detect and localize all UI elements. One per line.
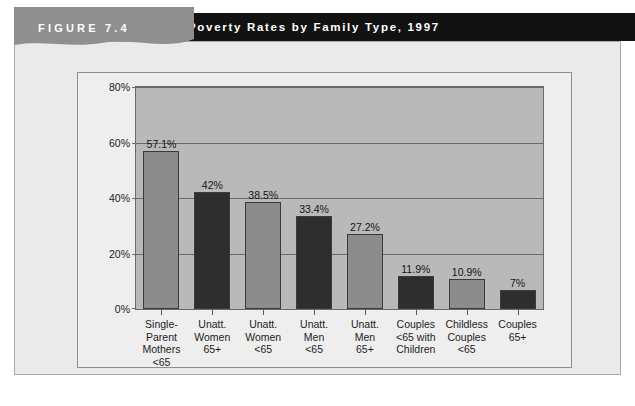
x-axis-tick-mark <box>263 309 264 315</box>
y-axis-tick-label: 40% <box>109 192 130 204</box>
bar-value-label: 33.4% <box>299 203 329 215</box>
bar[interactable]: 27.2% <box>347 234 383 309</box>
x-axis-tick-mark <box>467 309 468 315</box>
page-title: Poverty Rates by Family Type, 1997 <box>188 13 440 41</box>
bar[interactable]: 33.4% <box>296 216 332 309</box>
bar[interactable]: 7% <box>500 290 536 309</box>
gridline <box>136 143 543 144</box>
bar-value-label: 38.5% <box>248 189 278 201</box>
figure-panel: 0%20%40%60%80%57.1%Single- Parent Mother… <box>14 41 621 375</box>
bar[interactable]: 57.1% <box>143 151 179 309</box>
x-axis-tick-mark <box>161 309 162 315</box>
chart-frame: 0%20%40%60%80%57.1%Single- Parent Mother… <box>77 72 572 368</box>
bar[interactable]: 11.9% <box>398 276 434 309</box>
bar[interactable]: 38.5% <box>245 202 281 309</box>
bar[interactable]: 10.9% <box>449 279 485 309</box>
plot-area: 0%20%40%60%80%57.1%Single- Parent Mother… <box>135 86 544 310</box>
x-axis-tick-mark <box>314 309 315 315</box>
x-axis-tick-mark <box>518 309 519 315</box>
y-axis-tick-mark <box>132 87 136 88</box>
bar-value-label: 10.9% <box>452 266 482 278</box>
bar-chart: 0%20%40%60%80%57.1%Single- Parent Mother… <box>78 73 571 367</box>
bar-value-label: 27.2% <box>350 221 380 233</box>
bar-value-label: 57.1% <box>147 138 177 150</box>
gridline <box>136 87 543 88</box>
y-axis-tick-label: 80% <box>109 81 130 93</box>
y-axis-tick-mark <box>132 308 136 309</box>
x-axis-tick-mark <box>416 309 417 315</box>
y-axis-tick-label: 60% <box>109 137 130 149</box>
y-axis-tick-mark <box>132 198 136 199</box>
y-axis-tick-label: 0% <box>115 303 130 315</box>
y-axis-tick-mark <box>132 254 136 255</box>
x-axis-tick-mark <box>365 309 366 315</box>
figure-number-label: FIGURE 7.4 <box>38 19 130 37</box>
x-axis-tick-mark <box>212 309 213 315</box>
bar-value-label: 7% <box>510 277 525 289</box>
y-axis-tick-mark <box>132 143 136 144</box>
bar-value-label: 11.9% <box>401 263 430 275</box>
figure-header: Poverty Rates by Family Type, 1997 FIGUR… <box>0 0 635 52</box>
figure-number-tab: FIGURE 7.4 <box>14 7 194 51</box>
y-axis-tick-label: 20% <box>109 248 130 260</box>
bar-value-label: 42% <box>202 179 223 191</box>
bar[interactable]: 42% <box>194 192 230 309</box>
x-axis-category-label: Couples 65+ <box>486 318 549 343</box>
